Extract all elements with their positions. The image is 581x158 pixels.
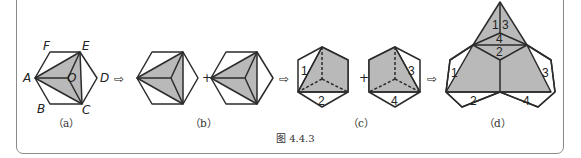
panel-b-hexagon-2 bbox=[211, 52, 273, 104]
vertex-label-o: O bbox=[67, 71, 76, 85]
panel-label-c: （c） bbox=[348, 117, 374, 129]
vertex-label-c: C bbox=[82, 103, 91, 117]
panel-a-hexagon bbox=[35, 52, 97, 104]
vertex-label-d: D bbox=[100, 71, 109, 85]
arrow-icon: ⇨ bbox=[114, 72, 124, 86]
vertex-label-b: B bbox=[37, 102, 45, 116]
face-number: 1 bbox=[492, 18, 499, 32]
plus-icon: + bbox=[202, 71, 212, 85]
panel-label-d: （d） bbox=[484, 117, 511, 129]
figure-diagram: F E A O D B C ⇨ + ⇨ + ⇨ 1 2 3 4 1 3 4 2 … bbox=[0, 0, 581, 158]
arrow-icon: ⇨ bbox=[279, 72, 289, 86]
face-number: 4 bbox=[496, 32, 503, 46]
face-number: 1 bbox=[451, 66, 458, 80]
panel-label-a: （a） bbox=[53, 117, 79, 129]
face-number: 3 bbox=[502, 18, 509, 32]
vertex-label-e: E bbox=[82, 39, 90, 53]
arrow-icon: ⇨ bbox=[427, 72, 437, 86]
face-number: 3 bbox=[408, 64, 415, 78]
face-number: 4 bbox=[391, 94, 398, 108]
face-number: 2 bbox=[318, 94, 325, 108]
face-number: 1 bbox=[301, 64, 308, 78]
face-number: 3 bbox=[542, 66, 549, 80]
face-number: 2 bbox=[496, 45, 503, 59]
face-number: 4 bbox=[523, 94, 530, 108]
figure-caption: 图 4.4.3 bbox=[276, 133, 315, 144]
face-number: 2 bbox=[470, 94, 477, 108]
plus-icon: + bbox=[359, 71, 369, 85]
vertex-label-a: A bbox=[22, 71, 31, 85]
panel-label-b: （b） bbox=[190, 117, 217, 129]
panel-b-hexagon-1 bbox=[137, 52, 198, 104]
vertex-label-f: F bbox=[43, 39, 51, 53]
